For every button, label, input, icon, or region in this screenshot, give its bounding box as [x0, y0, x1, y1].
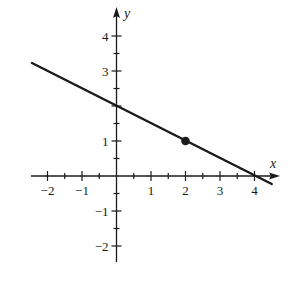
y-tick-label: −1 [95, 204, 109, 219]
y-tick-label: −2 [95, 239, 109, 254]
x-tick-label: 4 [251, 183, 258, 198]
y-tick-label: 4 [102, 29, 109, 44]
point-marker [181, 137, 190, 146]
x-axis-label: x [269, 156, 277, 171]
y-tick-label: 3 [102, 64, 109, 79]
tick-labels: −2−11234134−1−2 [41, 29, 259, 254]
y-axis-label: y [122, 6, 131, 21]
plotted-line [32, 63, 272, 184]
plotted-points [181, 137, 190, 146]
x-tick-label: −1 [75, 183, 89, 198]
data-line [32, 63, 272, 184]
x-tick-label: 2 [182, 183, 189, 198]
x-tick-label: 3 [217, 183, 224, 198]
y-tick-label: 1 [102, 134, 109, 149]
x-tick-label: −2 [41, 183, 55, 198]
axes [31, 7, 280, 262]
axis-ticks [48, 36, 255, 246]
x-tick-label: 1 [148, 183, 155, 198]
coordinate-plane: −2−11234134−1−2 x y [0, 0, 293, 284]
